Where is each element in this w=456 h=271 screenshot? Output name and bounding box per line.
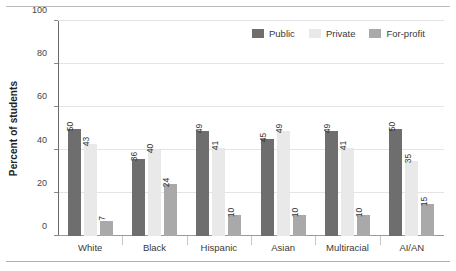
bar-slot: 10 bbox=[293, 21, 306, 236]
bar[interactable]: 10 bbox=[228, 215, 241, 237]
bar-slot: 7 bbox=[100, 21, 113, 236]
bar-slot: 10 bbox=[357, 21, 370, 236]
legend-swatch-icon bbox=[252, 29, 264, 38]
bar-value-label: 10 bbox=[291, 208, 300, 217]
bar-group: 364024 bbox=[122, 21, 186, 236]
bar-group: 503515 bbox=[380, 21, 444, 236]
bar-groups: 50437364024494110454910494110503515 bbox=[58, 21, 444, 236]
bar-slot: 41 bbox=[341, 21, 354, 236]
bar[interactable]: 45 bbox=[261, 139, 274, 236]
bar[interactable]: 24 bbox=[164, 184, 177, 236]
x-axis-separator bbox=[251, 236, 252, 245]
bar[interactable]: 7 bbox=[100, 221, 113, 236]
legend-swatch-icon bbox=[309, 29, 321, 38]
x-axis-separator bbox=[187, 236, 188, 245]
bar-slot: 49 bbox=[325, 21, 338, 236]
bar[interactable]: 43 bbox=[84, 144, 97, 236]
legend-label: Public bbox=[269, 28, 295, 39]
bar-value-label: 49 bbox=[194, 124, 203, 133]
bar[interactable]: 36 bbox=[132, 159, 145, 236]
bar-slot: 35 bbox=[405, 21, 418, 236]
bar-slot: 43 bbox=[84, 21, 97, 236]
bar-slot: 10 bbox=[228, 21, 241, 236]
bar-group: 454910 bbox=[251, 21, 315, 236]
legend-label: For-profit bbox=[386, 28, 425, 39]
bar-slot: 50 bbox=[389, 21, 402, 236]
bar-value-label: 41 bbox=[210, 141, 219, 150]
bar[interactable]: 49 bbox=[277, 131, 290, 236]
x-axis-category-text: AI/AN bbox=[399, 242, 424, 253]
y-axis-title-label: Percent of students bbox=[9, 81, 20, 176]
bar-value-label: 7 bbox=[98, 217, 107, 222]
bar-group: 494110 bbox=[187, 21, 251, 236]
bar[interactable]: 10 bbox=[293, 215, 306, 237]
x-axis-category-text: Hispanic bbox=[201, 242, 237, 253]
bar-value-label: 15 bbox=[419, 197, 428, 206]
legend-item[interactable]: Public bbox=[252, 28, 295, 39]
top-divider bbox=[6, 6, 450, 7]
bar-value-label: 50 bbox=[387, 122, 396, 131]
y-tick-label: 100 bbox=[32, 5, 47, 15]
legend: PublicPrivateFor-profit bbox=[252, 28, 425, 39]
x-axis-category-text: Asian bbox=[271, 242, 295, 253]
bar-value-label: 50 bbox=[66, 122, 75, 131]
legend-label: Private bbox=[326, 28, 356, 39]
bar-group: 494110 bbox=[315, 21, 379, 236]
bar-value-label: 43 bbox=[82, 137, 91, 146]
bar-slot: 24 bbox=[164, 21, 177, 236]
x-axis-category-text: White bbox=[78, 242, 102, 253]
bar[interactable]: 49 bbox=[196, 131, 209, 236]
bar[interactable]: 10 bbox=[357, 215, 370, 237]
legend-item[interactable]: Private bbox=[309, 28, 356, 39]
bar-value-label: 10 bbox=[355, 208, 364, 217]
y-tick-label: 40 bbox=[37, 135, 47, 145]
plot-area: 020406080100 504373640244941104549104941… bbox=[58, 21, 444, 236]
bottom-divider bbox=[6, 261, 450, 262]
bar-slot: 41 bbox=[212, 21, 225, 236]
bar[interactable]: 40 bbox=[148, 150, 161, 236]
bar-slot: 50 bbox=[68, 21, 81, 236]
x-axis-category-text: Black bbox=[143, 242, 166, 253]
bar-slot: 40 bbox=[148, 21, 161, 236]
bar-slot: 49 bbox=[196, 21, 209, 236]
bar-value-label: 36 bbox=[130, 152, 139, 161]
bar-value-label: 24 bbox=[162, 178, 171, 187]
bar-slot: 36 bbox=[132, 21, 145, 236]
x-axis-category-label: Multiracial bbox=[315, 236, 379, 258]
legend-swatch-icon bbox=[369, 29, 381, 38]
y-tick-label: 0 bbox=[42, 221, 47, 231]
bar-slot: 49 bbox=[277, 21, 290, 236]
bar-value-label: 41 bbox=[339, 141, 348, 150]
bar[interactable]: 41 bbox=[212, 148, 225, 236]
bar[interactable]: 50 bbox=[389, 129, 402, 237]
bar-value-label: 40 bbox=[146, 143, 155, 152]
x-axis-category-label: AI/AN bbox=[380, 236, 444, 258]
x-axis-category-text: Multiracial bbox=[326, 242, 369, 253]
y-tick-label: 20 bbox=[37, 178, 47, 188]
bar[interactable]: 50 bbox=[68, 129, 81, 237]
legend-item[interactable]: For-profit bbox=[369, 28, 425, 39]
bar[interactable]: 35 bbox=[405, 161, 418, 236]
bar-value-label: 35 bbox=[403, 154, 412, 163]
x-axis-separator bbox=[315, 236, 316, 245]
bar-value-label: 49 bbox=[275, 124, 284, 133]
chart-figure: Percent of students 020406080100 5043736… bbox=[0, 0, 456, 271]
x-axis-separator bbox=[122, 236, 123, 245]
x-axis-category-label: Asian bbox=[251, 236, 315, 258]
y-axis-title: Percent of students bbox=[7, 21, 21, 236]
x-axis-category-label: Hispanic bbox=[187, 236, 251, 258]
x-axis-category-label: Black bbox=[122, 236, 186, 258]
bar-value-label: 10 bbox=[226, 208, 235, 217]
y-tick-label: 80 bbox=[37, 48, 47, 58]
y-tick-label: 60 bbox=[37, 91, 47, 101]
x-axis: WhiteBlackHispanicAsianMultiracialAI/AN bbox=[58, 236, 444, 258]
bar[interactable]: 49 bbox=[325, 131, 338, 236]
bar[interactable]: 15 bbox=[421, 204, 434, 236]
x-axis-separator bbox=[380, 236, 381, 245]
bar-value-label: 45 bbox=[259, 133, 268, 142]
bar-group: 50437 bbox=[58, 21, 122, 236]
bar-value-label: 49 bbox=[323, 124, 332, 133]
bar[interactable]: 41 bbox=[341, 148, 354, 236]
bar-slot: 15 bbox=[421, 21, 434, 236]
bar-slot: 45 bbox=[261, 21, 274, 236]
